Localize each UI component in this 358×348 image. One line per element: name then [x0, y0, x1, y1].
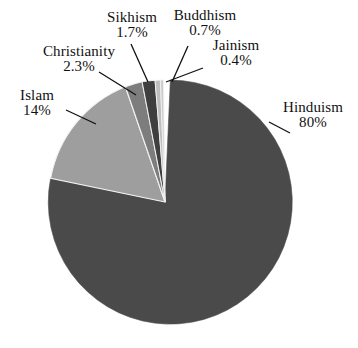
slice-label-hinduism-value: 80% — [272, 115, 354, 130]
slice-label-hinduism-name: Hinduism — [272, 100, 354, 115]
pie-chart: Sikhism 1.7% Buddhism 0.7% Jainism 0.4% … — [0, 0, 358, 348]
slice-label-jainism-value: 0.4% — [200, 53, 272, 68]
slice-label-sikhism-name: Sikhism — [96, 10, 168, 25]
slice-label-islam-name: Islam — [6, 88, 68, 103]
slice-label-buddhism: Buddhism 0.7% — [164, 8, 246, 39]
slice-label-buddhism-name: Buddhism — [164, 8, 246, 23]
slice-label-islam-value: 14% — [6, 103, 68, 118]
slice-label-jainism-name: Jainism — [200, 38, 272, 53]
slice-label-sikhism: Sikhism 1.7% — [96, 10, 168, 41]
slice-label-christianity-value: 2.3% — [32, 59, 126, 74]
leader-line-sikhism — [131, 44, 148, 82]
slice-label-islam: Islam 14% — [6, 88, 68, 119]
slice-label-hinduism: Hinduism 80% — [272, 100, 354, 131]
slice-label-christianity-name: Christianity — [32, 44, 126, 59]
slice-label-christianity: Christianity 2.3% — [32, 44, 126, 75]
slice-label-jainism: Jainism 0.4% — [200, 38, 272, 69]
leader-line-jainism — [166, 68, 203, 82]
slice-label-sikhism-value: 1.7% — [96, 25, 168, 40]
